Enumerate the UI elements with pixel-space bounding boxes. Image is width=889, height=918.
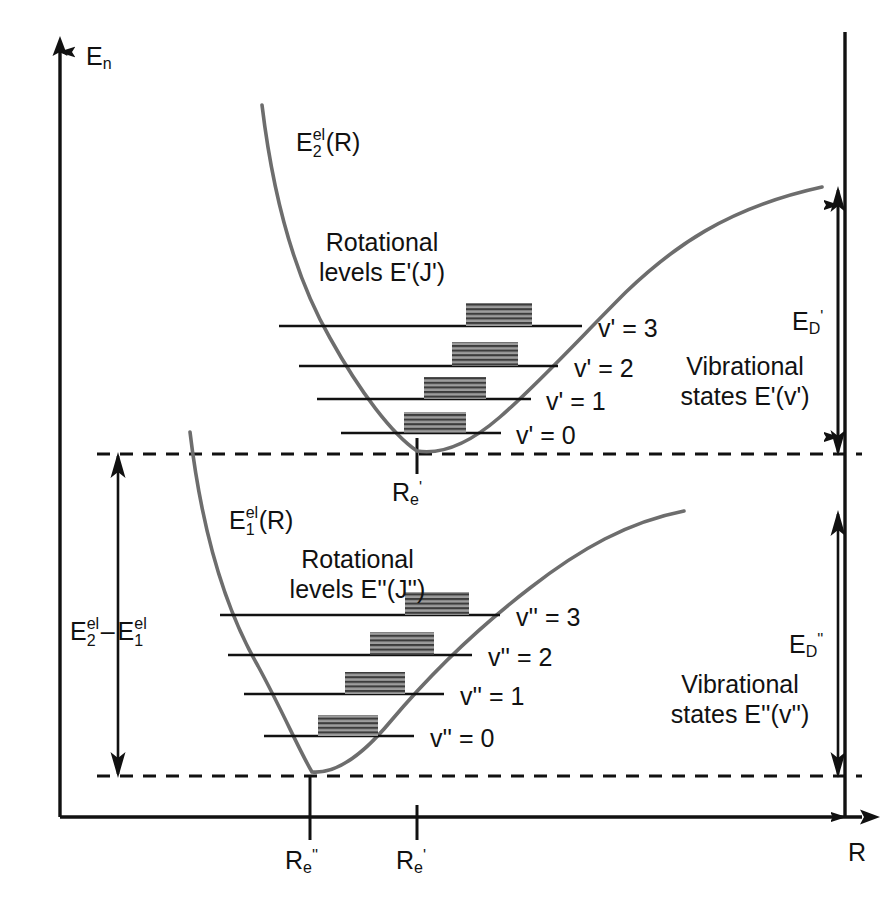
vibrational-level-label-upper-2: v' = 2 (574, 354, 634, 384)
potential-energy-diagram: En R Eel2(R) Eel1(R) Rotational levels E… (0, 0, 889, 918)
lower-vibrational-note-line1: Vibrational (640, 670, 840, 700)
rotational-sublevel-stack-lower-1 (345, 672, 405, 694)
upper-rotational-note-line2: levels E'(J') (282, 258, 482, 288)
vibrational-level-label-upper-1: v' = 1 (546, 387, 606, 417)
upper-vibrational-states-note: Vibrational states E'(v') (650, 352, 840, 411)
vibrational-level-label-lower-3: v'' = 3 (516, 603, 580, 633)
vibrational-level-label-lower-1: v'' = 1 (460, 682, 524, 712)
x-tick-label-Re-lower: Re'' (285, 846, 318, 876)
lower-rotational-levels-note: Rotational levels E''(J'') (250, 545, 465, 604)
y-axis-label: En (86, 42, 112, 72)
diagram-canvas (0, 0, 889, 918)
dissociation-energy-label-upper: ED' (792, 307, 823, 337)
vibrational-level-label-lower-2: v'' = 2 (488, 643, 552, 673)
vibrational-level-label-lower-0: v'' = 0 (430, 724, 494, 754)
upper-vibrational-note-line1: Vibrational (650, 352, 840, 382)
lower-vibrational-levels (220, 592, 500, 736)
x-axis-label: R (848, 838, 866, 868)
upper-rotational-levels-note: Rotational levels E'(J') (282, 228, 482, 287)
rotational-sublevel-stack-upper-2 (452, 342, 518, 366)
vibrational-level-label-upper-3: v' = 3 (598, 314, 658, 344)
upper-curve-label: Eel2(R) (296, 128, 360, 158)
rotational-sublevel-stack-upper-3 (466, 303, 532, 326)
electronic-energy-gap-label: Eel2–Eel1 (70, 617, 134, 647)
rotational-sublevel-stack-upper-0 (404, 412, 466, 433)
rotational-sublevel-stack-upper-1 (424, 377, 486, 399)
lower-curve-label: Eel1(R) (229, 506, 293, 536)
upper-rotational-note-line1: Rotational (282, 228, 482, 258)
lower-rotational-note-line2: levels E''(J'') (250, 575, 465, 605)
upper-vibrational-levels (279, 303, 582, 433)
vibrational-level-label-upper-0: v' = 0 (516, 421, 576, 451)
lower-rotational-note-line1: Rotational (250, 545, 465, 575)
lower-vibrational-note-line2: states E''(v'') (640, 700, 840, 730)
upper-vibrational-note-line2: states E'(v') (650, 382, 840, 412)
x-tick-label-Re-upper: Re' (396, 846, 426, 876)
dissociation-energy-label-lower: ED'' (789, 630, 823, 660)
equilibrium-distance-label-upper-inner: Re' (392, 478, 422, 508)
lower-vibrational-states-note: Vibrational states E''(v'') (640, 670, 840, 729)
rotational-sublevel-stack-lower-2 (370, 632, 434, 655)
rotational-sublevel-stack-lower-0 (318, 715, 378, 736)
x-axis-arrowhead (860, 810, 880, 825)
